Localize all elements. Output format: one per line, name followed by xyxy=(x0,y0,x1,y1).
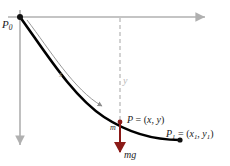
label-depth-y: y xyxy=(123,76,127,86)
label-p1-equals: = ( xyxy=(176,128,190,139)
label-mass-m: m xyxy=(110,124,116,132)
label-p0-main: P xyxy=(2,18,9,30)
diagram-canvas xyxy=(0,0,230,166)
label-p0-sub: 0 xyxy=(9,23,13,32)
label-point-p0: P0 xyxy=(2,19,12,31)
point-p0-marker xyxy=(17,14,23,20)
label-arc-length-s: s xyxy=(59,71,62,79)
label-point-p1: P1 = (x1, y1) xyxy=(166,129,214,140)
label-p1-close: ) xyxy=(210,128,213,139)
label-weight-mg: mg xyxy=(124,150,136,160)
label-p-close: ) xyxy=(161,114,164,125)
label-point-p: P = (x, y) xyxy=(127,115,164,125)
arc-length-arrow xyxy=(27,20,102,106)
brachistochrone-diagram: P0 P = (x, y) P1 = (x1, y1) m mg y s xyxy=(0,0,230,166)
label-p-equals: = ( xyxy=(133,114,147,125)
